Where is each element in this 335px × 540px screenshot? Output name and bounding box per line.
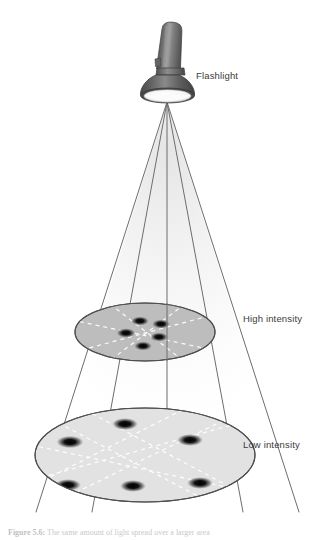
label-low-intensity: Low intensity — [243, 440, 300, 450]
figure-container: Flashlight High intensity Low intensity … — [0, 0, 335, 540]
figure-caption: Figure 5.6: The same amount of light spr… — [8, 528, 330, 538]
label-flashlight: Flashlight — [196, 71, 238, 81]
diagram-canvas — [0, 0, 335, 540]
flashlight-collar — [156, 68, 185, 75]
flashlight-switch-nub — [155, 58, 161, 67]
flashlight-object — [140, 21, 194, 103]
label-high-intensity: High intensity — [243, 314, 302, 324]
figure-caption-text: The same amount of light spread over a l… — [47, 528, 210, 537]
figure-caption-number: Figure 5.6: — [8, 528, 45, 537]
